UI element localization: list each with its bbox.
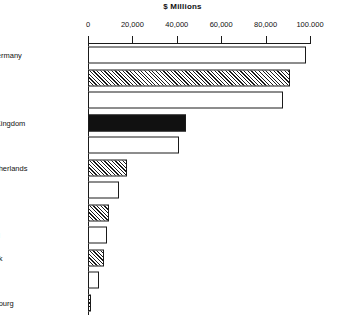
category-label-text: Ireland bbox=[0, 276, 92, 285]
bar-4 bbox=[88, 137, 179, 154]
bar-row: United Kingdom bbox=[0, 112, 345, 135]
bar-row: West Germany bbox=[0, 44, 345, 67]
category-label-text: The Netherlands bbox=[0, 163, 92, 172]
category-label-text: Greece bbox=[0, 208, 92, 217]
x-tick-1 bbox=[132, 36, 133, 43]
bar-5 bbox=[88, 159, 127, 176]
x-tick-label-5: 100.000 bbox=[285, 20, 335, 29]
bar-0 bbox=[88, 47, 306, 64]
category-label-text: Spain bbox=[0, 141, 92, 150]
bar-row: France bbox=[0, 67, 345, 90]
category-label-text: Italy bbox=[0, 96, 92, 105]
bar-8 bbox=[88, 227, 107, 244]
x-tick-label-1: 20,000 bbox=[107, 20, 157, 29]
bar-row: Belgium bbox=[0, 179, 345, 202]
chart-title-text: $ Millions bbox=[163, 2, 201, 11]
bar-row: Ireland bbox=[0, 269, 345, 292]
bar-7 bbox=[88, 204, 109, 221]
bar-3 bbox=[88, 114, 186, 131]
x-tick-label-4: 80,000 bbox=[241, 20, 291, 29]
category-label-4: Spain bbox=[0, 141, 92, 150]
category-label-5: The Netherlands bbox=[0, 163, 92, 172]
bar-row: Denmark bbox=[0, 247, 345, 270]
x-tick-0 bbox=[88, 36, 89, 43]
category-label-0: West Germany bbox=[0, 51, 92, 60]
category-label-text: United Kingdom bbox=[0, 118, 92, 127]
x-tick-5 bbox=[310, 36, 311, 43]
category-label-9: Denmark bbox=[0, 253, 92, 262]
bar-9 bbox=[88, 249, 104, 266]
bar-row: Spain bbox=[0, 134, 345, 157]
bar-row: Italy bbox=[0, 89, 345, 112]
x-tick-2 bbox=[177, 36, 178, 43]
bar-10 bbox=[88, 272, 99, 289]
bar-11 bbox=[88, 294, 91, 311]
category-label-text: Denmark bbox=[0, 253, 92, 262]
x-tick-label-0: 0 bbox=[63, 20, 113, 29]
category-label-text: Belgium bbox=[0, 186, 92, 195]
category-label-3: United Kingdom bbox=[0, 118, 92, 127]
x-tick-3 bbox=[221, 36, 222, 43]
category-label-text: Portugal bbox=[0, 231, 92, 240]
category-label-6: Belgium bbox=[0, 186, 92, 195]
category-label-8: Portugal bbox=[0, 231, 92, 240]
bar-1 bbox=[88, 69, 290, 86]
category-label-1: France bbox=[0, 73, 92, 82]
chart-title: $ Millions bbox=[0, 2, 345, 11]
bar-row: The Netherlands bbox=[0, 157, 345, 180]
x-tick-label-3: 60,000 bbox=[196, 20, 246, 29]
bar-2 bbox=[88, 92, 283, 109]
bar-chart: $ Millions 020,00040,00060,00080,000100.… bbox=[0, 0, 345, 330]
category-label-10: Ireland bbox=[0, 276, 92, 285]
bar-row: Luxembourg bbox=[0, 292, 345, 315]
category-label-text: France bbox=[0, 73, 92, 82]
category-label-text: West Germany bbox=[0, 51, 92, 60]
x-tick-4 bbox=[266, 36, 267, 43]
category-label-11: Luxembourg bbox=[0, 298, 92, 307]
bar-6 bbox=[88, 182, 119, 199]
category-label-text: Luxembourg bbox=[0, 298, 92, 307]
x-tick-label-2: 40,000 bbox=[152, 20, 202, 29]
bar-row: Greece bbox=[0, 202, 345, 225]
category-label-2: Italy bbox=[0, 96, 92, 105]
bar-row: Portugal bbox=[0, 224, 345, 247]
category-label-7: Greece bbox=[0, 208, 92, 217]
